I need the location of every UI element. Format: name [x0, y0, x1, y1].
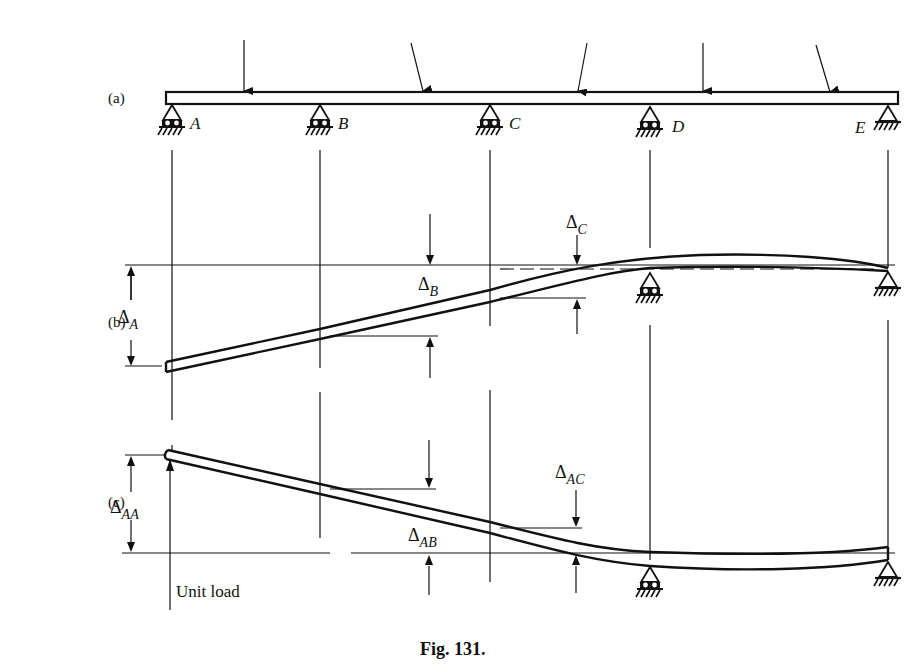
roller-support-icon	[636, 107, 663, 137]
roller-support-icon	[306, 105, 333, 135]
support-label-a: A	[189, 114, 201, 133]
unit-load-label: Unit load	[176, 582, 240, 601]
support-label-c: C	[509, 114, 521, 133]
panel-b: (b) ΔA ΔB ΔC	[108, 212, 901, 378]
delta-b-label: ΔB	[418, 274, 439, 299]
delta-ac-label: ΔAC	[555, 462, 585, 487]
figure-caption: Fig. 131.	[420, 639, 486, 659]
panel-c: (c) Unit load ΔAA ΔAB ΔAC	[108, 440, 901, 610]
roller-support-icon	[158, 105, 185, 135]
pin-support-icon	[874, 106, 901, 130]
panel-a-label: (a)	[108, 90, 125, 107]
support-label-d: D	[671, 117, 685, 136]
pin-support-icon	[874, 562, 901, 586]
delta-ab-label: ΔAB	[408, 525, 437, 550]
load-arrow-icon	[816, 45, 830, 92]
panel-a: (a) A B C D E	[108, 40, 901, 137]
load-arrow-icon	[411, 43, 423, 91]
pin-support-icon	[874, 272, 901, 296]
support-label-e: E	[854, 118, 866, 137]
roller-support-icon	[636, 567, 663, 597]
beam	[166, 92, 898, 104]
beam-deflection-figure: (a) A B C D E (b)	[0, 0, 909, 670]
roller-support-icon	[636, 273, 663, 303]
load-arrows	[244, 40, 830, 92]
projection-lines	[172, 150, 888, 582]
roller-support-icon	[476, 105, 503, 135]
load-arrow-icon	[578, 43, 587, 91]
support-label-b: B	[338, 114, 349, 133]
delta-c-label: ΔC	[566, 212, 588, 237]
